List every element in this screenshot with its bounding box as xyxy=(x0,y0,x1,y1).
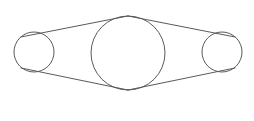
circles-group xyxy=(14,16,242,90)
diagram-svg xyxy=(0,0,254,121)
left-circle xyxy=(14,32,54,72)
diagram-canvas xyxy=(0,0,254,121)
center-circle xyxy=(91,16,165,90)
connector-lines-group xyxy=(21,16,235,90)
right-circle xyxy=(202,32,242,72)
